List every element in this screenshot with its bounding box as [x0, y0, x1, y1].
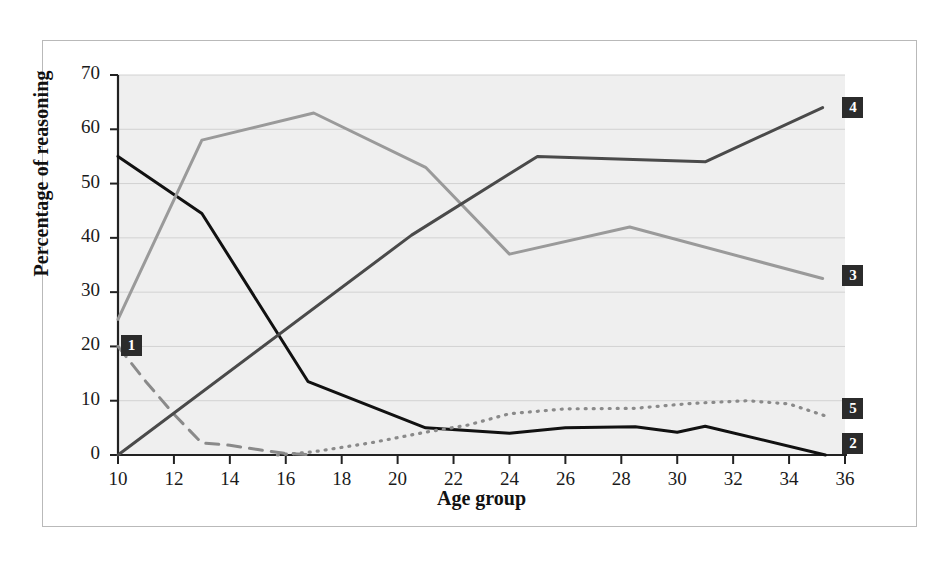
- x-tick-label-16: 16: [263, 468, 309, 490]
- x-tick-label-28: 28: [598, 468, 644, 490]
- x-tick-label-12: 12: [151, 468, 197, 490]
- x-tick-label-30: 30: [654, 468, 700, 490]
- y-axis-label: Percentage of reasoning: [30, 14, 53, 334]
- series-label-4: 4: [842, 97, 863, 118]
- x-tick-label-36: 36: [822, 468, 868, 490]
- x-tick-label-32: 32: [710, 468, 756, 490]
- series-label-3: 3: [842, 265, 863, 286]
- y-tick-label-60: 60: [54, 116, 100, 138]
- series-label-5: 5: [842, 398, 863, 419]
- plot-background: [118, 75, 845, 455]
- x-tick-label-26: 26: [542, 468, 588, 490]
- series-label-2: 2: [842, 433, 863, 454]
- y-tick-label-20: 20: [54, 333, 100, 355]
- x-tick-label-20: 20: [375, 468, 421, 490]
- x-tick-label-10: 10: [95, 468, 141, 490]
- chart-figure: Percentage of reasoning Age group 010203…: [0, 0, 950, 561]
- y-tick-label-10: 10: [54, 388, 100, 410]
- y-tick-label-0: 0: [54, 442, 100, 464]
- x-tick-label-34: 34: [766, 468, 812, 490]
- x-tick-label-18: 18: [319, 468, 365, 490]
- y-tick-label-40: 40: [54, 225, 100, 247]
- x-axis-label: Age group: [118, 487, 845, 510]
- x-tick-label-14: 14: [207, 468, 253, 490]
- y-tick-label-70: 70: [54, 62, 100, 84]
- x-tick-label-22: 22: [431, 468, 477, 490]
- y-tick-label-30: 30: [54, 279, 100, 301]
- series-label-1: 1: [121, 335, 142, 356]
- x-tick-label-24: 24: [486, 468, 532, 490]
- y-tick-label-50: 50: [54, 171, 100, 193]
